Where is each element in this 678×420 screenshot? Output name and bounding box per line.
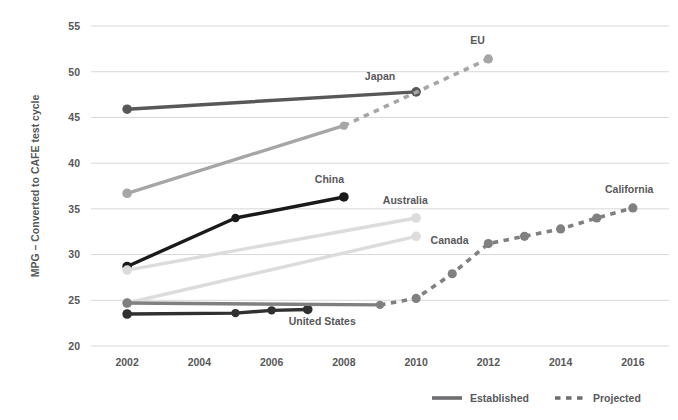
y-tick-label-55: 55 [68,20,80,32]
data-point [122,298,132,308]
data-point [448,269,457,278]
y-tick-label-50: 50 [68,66,80,78]
series-label-australia: Australia [383,194,428,206]
data-point [231,214,239,222]
y-tick-label-35: 35 [68,203,80,215]
y-tick-label-40: 40 [68,157,80,169]
series-line-established [127,92,416,109]
data-point [122,189,132,199]
chart-container: 2025303540455055200220042006200820102012… [0,0,678,420]
data-point [122,265,132,275]
series-label-japan: Japan [365,70,395,82]
series-label-canada: Canada [431,234,469,246]
data-point [376,301,384,309]
series-united-states [122,305,312,319]
series-label-china: China [315,173,344,185]
legend: EstablishedProjected [432,392,641,404]
series-line-established [127,126,344,194]
series-label-united-states: United States [289,315,356,327]
x-tick-label-2010: 2010 [404,356,428,368]
series-line-projected [380,208,633,305]
series-eu [122,54,493,198]
data-point [340,121,348,129]
series-label-california: California [605,183,654,195]
y-axis-title: MPG – Converted to CAFE test cycle [29,95,41,278]
x-tick-label-2012: 2012 [477,356,501,368]
data-point [122,104,132,114]
data-point [520,232,529,241]
data-point [411,231,421,241]
series-line-established [127,303,380,305]
data-point [592,213,601,222]
y-tick-label-45: 45 [68,111,80,123]
y-tick-label-30: 30 [68,248,80,260]
series-label-eu: EU [470,34,485,46]
data-point [303,305,313,315]
data-point [339,192,349,202]
data-point [411,213,421,223]
series-line-established [127,197,344,266]
x-tick-label-2014: 2014 [549,356,573,368]
data-point [122,309,132,319]
data-point [484,54,493,63]
x-tick-label-2016: 2016 [621,356,645,368]
series-group [122,54,637,318]
x-tick-label-2002: 2002 [115,356,139,368]
data-point [628,203,637,212]
data-point [267,306,275,314]
legend-label-established: Established [470,392,529,404]
series-line-established [127,309,308,314]
data-point [231,309,239,317]
series-line-projected [344,59,489,126]
legend-label-projected: Projected [593,392,641,404]
data-point [412,294,421,303]
x-tick-label-2008: 2008 [332,356,356,368]
line-chart: 2025303540455055200220042006200820102012… [0,0,678,420]
data-point [484,239,493,248]
series-line-established [127,218,416,270]
y-tick-label-20: 20 [68,340,80,352]
x-tick-label-2006: 2006 [260,356,284,368]
x-tick-label-2004: 2004 [188,356,212,368]
y-tick-label-25: 25 [68,294,80,306]
data-point [556,224,565,233]
